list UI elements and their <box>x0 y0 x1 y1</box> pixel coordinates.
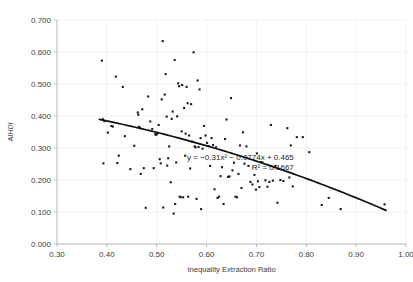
data-point <box>193 51 195 53</box>
data-point <box>162 40 164 42</box>
r-squared-label: R² = 0.1667 <box>252 163 295 172</box>
data-point <box>237 173 239 175</box>
scatter-chart-figure: 0.0000.1000.2000.3000.4000.5000.6000.700… <box>0 0 413 282</box>
data-point <box>112 126 114 128</box>
data-point <box>321 204 323 206</box>
data-point <box>203 125 205 127</box>
data-point <box>180 196 182 198</box>
data-point <box>221 166 223 168</box>
data-point <box>212 144 214 146</box>
y-tick-label: 0.200 <box>31 176 52 185</box>
data-point <box>186 86 188 88</box>
data-point <box>249 181 251 183</box>
data-point <box>115 76 117 78</box>
data-point <box>172 110 174 112</box>
y-tick-label: 0.000 <box>31 240 52 249</box>
data-point <box>253 174 255 176</box>
data-point <box>255 189 257 191</box>
y-tick-label: 0.300 <box>31 144 52 153</box>
data-point <box>302 136 304 138</box>
data-point <box>166 165 168 167</box>
data-point <box>159 158 161 160</box>
x-axis-tick-labels: 0.300.400.500.600.700.800.901.00 <box>49 250 413 259</box>
data-point <box>384 203 386 205</box>
data-point <box>167 157 169 159</box>
data-point <box>168 145 170 147</box>
data-point <box>236 196 238 198</box>
data-point <box>174 203 176 205</box>
data-point <box>190 103 192 105</box>
data-point <box>133 145 135 147</box>
data-point <box>162 206 164 208</box>
data-point <box>266 186 268 188</box>
data-point <box>328 197 330 199</box>
data-point <box>239 144 241 146</box>
data-point <box>209 165 211 167</box>
x-axis-title: Inequality Extraction Ratio <box>187 265 275 274</box>
data-point <box>243 163 245 165</box>
grid-lines <box>57 20 406 244</box>
x-tick-label: 1.00 <box>398 250 413 259</box>
data-point <box>272 180 274 182</box>
data-point <box>228 175 230 177</box>
data-point <box>340 208 342 210</box>
data-point <box>286 127 288 129</box>
data-point <box>161 98 163 100</box>
data-point <box>202 148 204 150</box>
data-point <box>197 79 199 81</box>
data-point <box>308 151 310 153</box>
data-point <box>145 207 147 209</box>
data-point <box>257 180 259 182</box>
data-point <box>176 115 178 117</box>
data-point <box>251 183 253 185</box>
data-point <box>288 176 290 178</box>
data-point <box>129 168 131 170</box>
data-point <box>187 102 189 104</box>
data-point <box>224 138 226 140</box>
data-point <box>242 131 244 133</box>
data-point <box>206 142 208 144</box>
data-point <box>188 134 190 136</box>
data-point <box>240 187 242 189</box>
data-point <box>171 118 173 120</box>
chart-canvas: 0.0000.1000.2000.3000.4000.5000.6000.700… <box>0 0 413 282</box>
data-point <box>183 107 185 109</box>
data-point <box>101 60 103 62</box>
data-point <box>268 181 270 183</box>
data-point <box>230 97 232 99</box>
data-point <box>170 181 172 183</box>
data-point <box>187 196 189 198</box>
data-point <box>141 108 143 110</box>
data-point <box>270 124 272 126</box>
y-axis-title: AIHDI <box>6 122 15 142</box>
data-point <box>222 203 224 205</box>
data-point <box>195 146 197 148</box>
y-tick-label: 0.600 <box>31 48 52 57</box>
data-point <box>118 155 120 157</box>
data-point <box>196 198 198 200</box>
x-tick-label: 0.60 <box>199 250 215 259</box>
data-point <box>290 144 292 146</box>
data-point <box>158 124 160 126</box>
data-point <box>200 137 202 139</box>
data-point <box>199 88 201 90</box>
scatter-data-points <box>101 40 386 215</box>
data-point <box>258 186 260 188</box>
data-point <box>143 167 145 169</box>
data-point <box>124 135 126 137</box>
data-point <box>160 162 162 164</box>
data-point <box>279 179 281 181</box>
data-point <box>149 120 151 122</box>
x-tick-label: 0.70 <box>249 250 265 259</box>
data-point <box>219 175 221 177</box>
data-point <box>213 188 215 190</box>
data-point <box>140 173 142 175</box>
trendline-equation-label: y = −0.31x² − 0.0774x + 0.465 <box>187 153 294 162</box>
y-tick-label: 0.100 <box>31 208 52 217</box>
data-point <box>264 179 266 181</box>
data-point <box>147 95 149 97</box>
x-tick-label: 0.80 <box>298 250 314 259</box>
data-point <box>276 202 278 204</box>
data-point <box>181 84 183 86</box>
data-point <box>211 137 213 139</box>
